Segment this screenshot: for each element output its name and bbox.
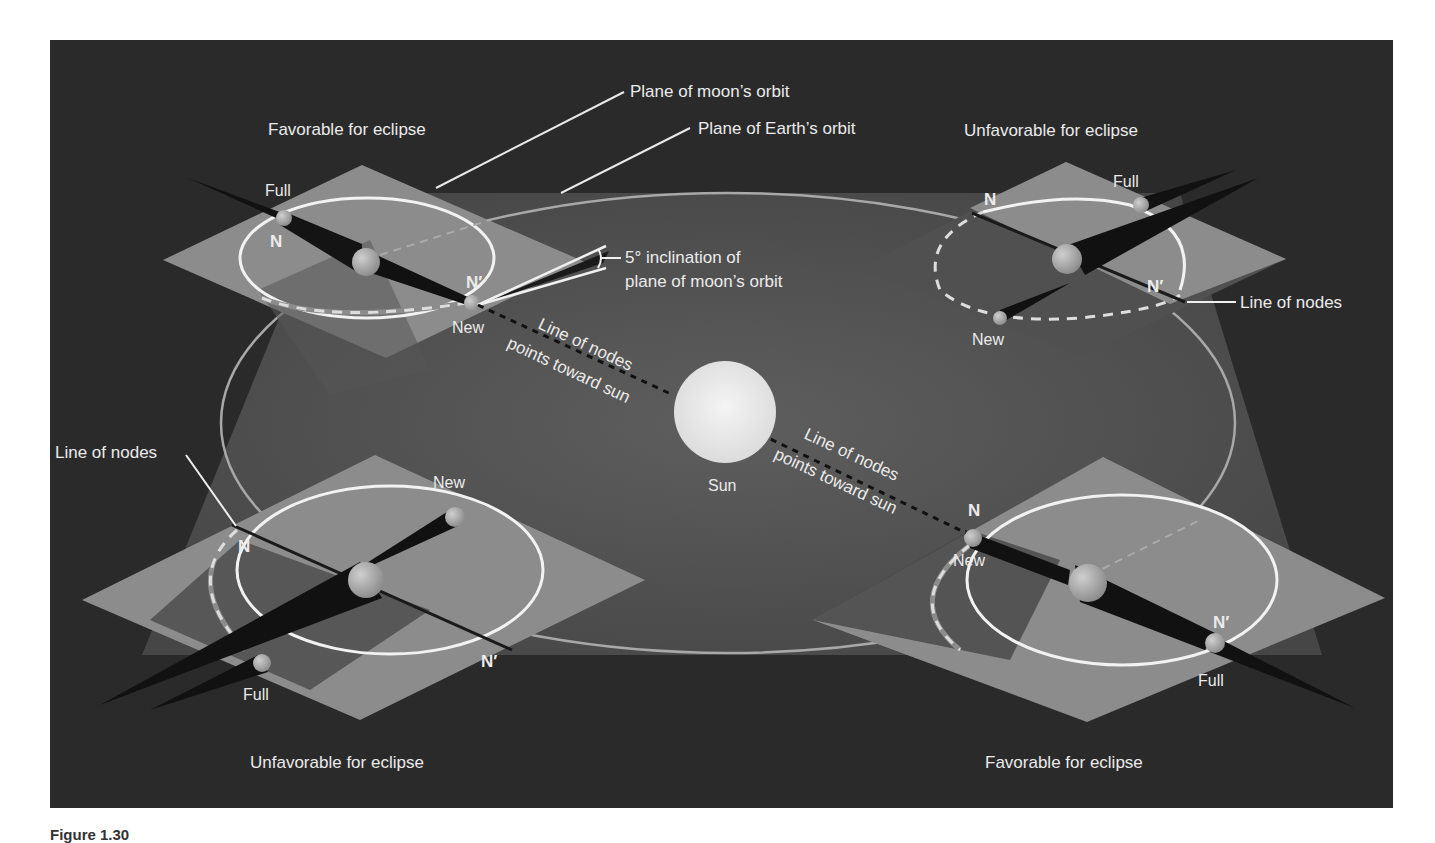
tr-node-label: N	[984, 190, 996, 209]
tl-full-label: Full	[265, 182, 291, 199]
sun-label: Sun	[708, 477, 736, 494]
plane-moon-orbit-label: Plane of moon’s orbit	[630, 82, 790, 101]
bl-line-of-nodes-label: Line of nodes	[55, 443, 157, 462]
plane-earth-orbit-label: Plane of Earth’s orbit	[698, 119, 856, 138]
tl-new-label: New	[452, 319, 484, 336]
tr-node-prime-label: N′	[1147, 277, 1163, 296]
top-left-title: Favorable for eclipse	[268, 120, 426, 139]
inclination-label-2: plane of moon’s orbit	[625, 272, 783, 291]
br-node-prime-label: N′	[1213, 613, 1229, 632]
br-full-label: Full	[1198, 672, 1224, 689]
bl-node-prime-label: N′	[481, 652, 497, 671]
bottom-left-title: Unfavorable for eclipse	[250, 753, 424, 772]
figure-caption: Figure 1.30	[50, 826, 129, 843]
sun-icon	[674, 361, 776, 463]
bottom-right-title: Favorable for eclipse	[985, 753, 1143, 772]
bl-new-label: New	[433, 474, 465, 491]
tr-full-label: Full	[1113, 173, 1139, 190]
tr-new-label: New	[972, 331, 1004, 348]
tl-node-label: N	[270, 232, 282, 251]
inclination-label-1: 5° inclination of	[625, 248, 741, 267]
br-node-label: N	[968, 501, 980, 520]
tr-line-of-nodes-label: Line of nodes	[1240, 293, 1342, 312]
bl-node-label: N	[238, 537, 250, 556]
bl-full-label: Full	[243, 686, 269, 703]
top-right-title: Unfavorable for eclipse	[964, 121, 1138, 140]
br-new-label: New	[953, 552, 985, 569]
tl-node-prime-label: N′	[466, 273, 482, 292]
